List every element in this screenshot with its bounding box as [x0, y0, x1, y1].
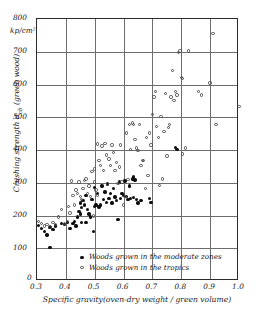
data-point: [103, 190, 106, 193]
data-point: [43, 230, 46, 233]
data-point: [214, 123, 217, 126]
data-point: [84, 221, 87, 224]
data-point: [120, 180, 123, 183]
grid-line-vertical: [210, 19, 211, 279]
data-point: [90, 198, 93, 201]
x-tick-label: 0.6: [110, 283, 136, 290]
x-axis-title: Specific gravity(oven-dry weight / green…: [36, 296, 238, 304]
grid-line-vertical: [95, 19, 96, 279]
data-point: [139, 164, 142, 167]
data-point: [119, 143, 122, 146]
data-point: [115, 199, 118, 202]
data-point: [45, 233, 48, 236]
y-tick-label: 700: [0, 47, 27, 54]
data-point: [113, 169, 116, 172]
x-tick-label: 0.9: [196, 283, 222, 290]
data-point: [149, 143, 152, 146]
data-point: [66, 220, 69, 223]
data-point: [112, 151, 115, 154]
x-tick-label: 0.3: [23, 283, 49, 290]
data-point: [71, 194, 74, 197]
y-axis-unit: kp/cm²: [10, 27, 36, 34]
data-point: [112, 187, 115, 190]
data-point: [110, 143, 113, 146]
data-point: [168, 123, 171, 126]
data-point: [87, 184, 90, 187]
data-point: [93, 167, 96, 170]
data-point: [110, 201, 113, 204]
data-point: [81, 187, 84, 190]
data-point: [178, 49, 181, 52]
plot-area: [36, 18, 238, 280]
data-point: [79, 212, 82, 215]
data-point: [154, 90, 157, 93]
data-point: [123, 195, 126, 198]
data-point: [164, 92, 167, 95]
data-point: [105, 201, 108, 204]
data-point: [105, 153, 108, 156]
x-tick-label: 0.7: [138, 283, 164, 290]
data-point: [94, 188, 97, 191]
data-point: [68, 211, 71, 214]
data-point: [136, 149, 139, 152]
data-point: [115, 161, 118, 164]
data-point: [139, 199, 142, 202]
data-point: [83, 203, 86, 206]
data-point: [74, 224, 77, 227]
data-point: [119, 197, 122, 200]
data-point: [109, 164, 112, 167]
x-tick-label: 0.8: [167, 283, 193, 290]
data-point: [76, 215, 79, 218]
data-point: [132, 123, 135, 126]
origin-label: 0: [27, 274, 32, 281]
data-point: [237, 105, 240, 108]
data-point: [109, 192, 112, 195]
data-point: [92, 214, 95, 217]
y-tick-label: 300: [0, 178, 27, 185]
data-point: [165, 154, 168, 157]
data-point: [128, 184, 131, 187]
filled-circle-icon: [78, 256, 86, 259]
data-point: [146, 174, 149, 177]
data-point: [148, 131, 151, 134]
legend-label: Woods grown in the tropics: [89, 263, 189, 274]
data-point: [159, 115, 162, 118]
data-point: [68, 227, 71, 230]
data-point: [100, 184, 103, 187]
data-point: [97, 159, 100, 162]
data-point: [181, 77, 184, 80]
data-point: [187, 49, 190, 52]
data-point: [67, 205, 70, 208]
legend-item: Woods grown in the tropics: [78, 263, 222, 274]
data-point: [73, 220, 76, 223]
data-point: [138, 123, 141, 126]
data-point: [155, 125, 158, 128]
y-tick-label: 200: [0, 211, 27, 218]
grid-line-vertical: [66, 19, 67, 279]
data-point: [116, 182, 119, 185]
data-point: [57, 215, 60, 218]
data-point: [133, 138, 136, 141]
y-tick-label: 100: [0, 244, 27, 251]
data-point: [118, 165, 121, 168]
data-point: [96, 194, 99, 197]
grid-line-vertical: [124, 19, 125, 279]
data-point: [99, 164, 102, 167]
data-point: [99, 203, 102, 206]
data-point: [48, 225, 51, 228]
data-point: [208, 81, 211, 84]
data-point: [84, 177, 87, 180]
grid-line-vertical: [152, 19, 153, 279]
data-point: [152, 95, 155, 98]
data-point: [149, 201, 152, 204]
data-point: [171, 69, 174, 72]
data-point: [175, 93, 178, 96]
legend-label: Woods grown in the moderate zones: [89, 252, 222, 263]
y-tick-label: 500: [0, 113, 27, 120]
y-tick-label: 400: [0, 145, 27, 152]
data-point: [106, 182, 109, 185]
data-point: [157, 136, 160, 139]
data-point: [103, 142, 106, 145]
x-tick-label: 0.5: [81, 283, 107, 290]
grid-line-horizontal: [37, 248, 237, 249]
